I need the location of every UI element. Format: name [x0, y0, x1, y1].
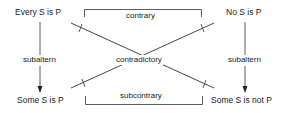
relation-contrary-label: contrary: [126, 11, 155, 21]
relation-subaltern-right-label: subaltern: [227, 55, 262, 65]
arrowhead-icon: [243, 86, 248, 93]
relation-subaltern-left-label: subaltern: [22, 55, 57, 65]
proposition-every-s-is-p: Every S is P: [15, 7, 61, 17]
proposition-some-s-is-not-p: Some S is not P: [211, 95, 272, 105]
proposition-no-s-is-p: No S is P: [226, 7, 261, 17]
square-of-opposition-diagram: Every S is P No S is P Some S is P Some …: [0, 0, 286, 113]
proposition-some-s-is-p: Some S is P: [17, 95, 64, 105]
arrowhead-icon: [38, 86, 43, 93]
relation-subcontrary-label: subcontrary: [120, 91, 162, 101]
relation-contradictory-label: contradictory: [115, 55, 163, 65]
